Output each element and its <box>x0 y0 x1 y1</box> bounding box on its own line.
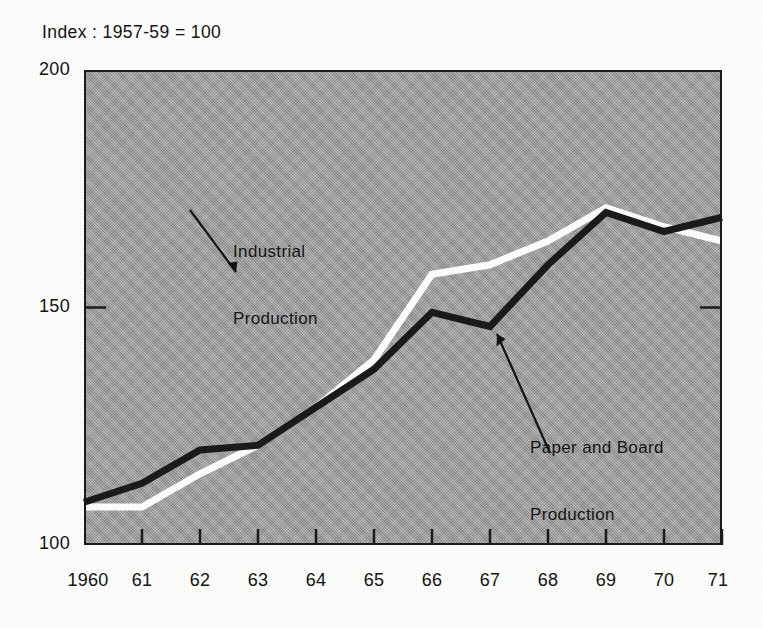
x-axis-tick-label-64: 64 <box>306 570 327 591</box>
y-axis-tick-label-150: 150 <box>16 296 70 317</box>
annotation-paper-line2: Production <box>530 504 664 526</box>
x-axis-tick-label-67: 67 <box>480 570 501 591</box>
chart-figure: Index : 1957-59 = 100 200 150 100 1960 6… <box>0 0 763 628</box>
x-axis-tick-label-62: 62 <box>190 570 211 591</box>
plot-area: Industrial Production Paper and Board Pr… <box>84 70 722 545</box>
annotation-industrial-line1: Industrial <box>233 241 318 263</box>
x-axis-tick-label-68: 68 <box>538 570 559 591</box>
chart-title: Index : 1957-59 = 100 <box>42 22 221 43</box>
y-axis-tick-label-100: 100 <box>16 533 70 554</box>
annotation-industrial-line2: Production <box>233 308 318 330</box>
annotation-arrow-industrial <box>190 210 238 272</box>
x-axis-tick-label-63: 63 <box>248 570 269 591</box>
x-axis-tick-label-65: 65 <box>364 570 385 591</box>
x-axis-tick-label-70: 70 <box>654 570 675 591</box>
y-axis-tick-label-200: 200 <box>16 59 70 80</box>
x-axis-tick-label-69: 69 <box>596 570 617 591</box>
x-axis-tick-label-1960: 1960 <box>67 570 108 591</box>
annotation-industrial-production: Industrial Production <box>233 196 318 376</box>
annotation-paper-line1: Paper and Board <box>530 437 664 459</box>
x-axis-tick-label-66: 66 <box>422 570 443 591</box>
x-axis-tick-label-61: 61 <box>132 570 153 591</box>
x-axis-tick-label-71: 71 <box>708 570 729 591</box>
annotation-paper-and-board-production: Paper and Board Production <box>530 392 664 572</box>
